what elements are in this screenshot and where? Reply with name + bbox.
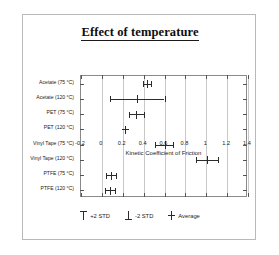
x-axis-tick-label: -0.2 bbox=[75, 140, 85, 146]
y-axis-category-label: PET (75 °C) bbox=[47, 110, 74, 116]
error-bar-cap bbox=[105, 188, 106, 194]
x-axis-tick bbox=[185, 75, 186, 79]
x-axis-tick bbox=[81, 75, 82, 79]
error-bar-cap bbox=[218, 157, 219, 163]
x-axis-tick bbox=[206, 193, 207, 197]
x-axis-tick-label: 0 bbox=[99, 140, 102, 146]
average-marker-cross bbox=[134, 99, 141, 100]
x-axis-tick bbox=[248, 75, 249, 79]
legend-item: +2 STD bbox=[80, 211, 110, 220]
average-marker-cross bbox=[133, 114, 140, 115]
y-axis-category-label: PTFE (75 °C) bbox=[43, 171, 74, 177]
legend-item: Average bbox=[168, 211, 200, 220]
error-bar-cap bbox=[106, 173, 107, 179]
error-bar-series bbox=[81, 160, 248, 161]
chart-legend: +2 STD-2 STDAverage bbox=[23, 211, 257, 220]
chart-title-text: Effect of temperature bbox=[81, 25, 198, 41]
x-axis-tick bbox=[102, 193, 103, 197]
y-axis-category-label: Vinyl Tape (120 °C) bbox=[30, 156, 74, 162]
y-axis-category-label: Acetate (120 °C) bbox=[36, 95, 74, 101]
x-axis-tick bbox=[227, 75, 228, 79]
error-bar-series bbox=[81, 99, 248, 100]
error-bar-series bbox=[81, 114, 248, 115]
average-marker-cross bbox=[122, 129, 129, 130]
gridline bbox=[165, 76, 166, 196]
legend-marker-icon bbox=[168, 211, 175, 220]
average-marker-cross bbox=[204, 160, 211, 161]
legend-label: +2 STD bbox=[90, 213, 110, 219]
average-marker-cross bbox=[144, 84, 151, 85]
average-marker-cross bbox=[108, 175, 115, 176]
x-axis-tick bbox=[123, 193, 124, 197]
plot-area bbox=[80, 75, 247, 197]
x-axis-tick bbox=[144, 75, 145, 79]
gridline bbox=[206, 76, 207, 196]
average-marker-cross bbox=[107, 190, 114, 191]
x-axis-tick-label: 1 bbox=[204, 140, 207, 146]
x-axis-tick bbox=[81, 193, 82, 197]
error-bar-series bbox=[81, 175, 248, 176]
error-bar-cap bbox=[129, 112, 130, 118]
error-bar-series bbox=[81, 190, 248, 191]
x-axis-tick-label: 0.2 bbox=[118, 140, 126, 146]
error-bar-cap bbox=[110, 96, 111, 102]
error-bar-cap bbox=[155, 142, 156, 148]
y-axis-category-label: Vinyl Tape (75 °C) bbox=[33, 141, 74, 147]
error-bar-series bbox=[81, 84, 248, 85]
legend-marker-icon bbox=[80, 211, 87, 220]
y-axis-category-label: Acetate (75 °C) bbox=[39, 80, 74, 86]
x-axis-tick-label: 1.2 bbox=[222, 140, 230, 146]
error-bar-series bbox=[81, 129, 248, 130]
x-axis-tick-label: 0.6 bbox=[160, 140, 168, 146]
x-axis-tick bbox=[165, 193, 166, 197]
y-axis-category-label: PET (120 °C) bbox=[44, 126, 74, 132]
error-bar-cap bbox=[144, 112, 145, 118]
x-axis-tick bbox=[165, 75, 166, 79]
gridline bbox=[123, 76, 124, 196]
chart-figure: Effect of temperature Acetate (75 °C)Ace… bbox=[22, 14, 256, 240]
gridline bbox=[102, 76, 103, 196]
legend-marker-icon bbox=[125, 211, 132, 220]
error-bar-cap bbox=[115, 188, 116, 194]
legend-item: -2 STD bbox=[125, 211, 153, 220]
error-bar-cap bbox=[165, 96, 166, 102]
x-axis-tick bbox=[102, 75, 103, 79]
legend-label: -2 STD bbox=[135, 213, 153, 219]
x-axis-tick bbox=[144, 193, 145, 197]
x-axis-tick bbox=[248, 193, 249, 197]
y-axis-category-label: PTFE (120 °C) bbox=[41, 187, 74, 193]
chart-title: Effect of temperature bbox=[23, 25, 257, 40]
gridline bbox=[248, 76, 249, 196]
x-axis-tick-label: 1.4 bbox=[243, 140, 251, 146]
error-bar-cap bbox=[151, 81, 152, 87]
x-axis-title: Kinetic Coefficient of Friction bbox=[80, 150, 247, 156]
gridline bbox=[227, 76, 228, 196]
x-axis-tick bbox=[185, 193, 186, 197]
error-bar-cap bbox=[196, 157, 197, 163]
x-axis-tick bbox=[206, 75, 207, 79]
gridline bbox=[185, 76, 186, 196]
x-axis-tick bbox=[123, 75, 124, 79]
x-axis-tick-label: 0.4 bbox=[139, 140, 147, 146]
x-axis-tick bbox=[227, 193, 228, 197]
legend-label: Average bbox=[178, 213, 200, 219]
error-bar-cap bbox=[116, 173, 117, 179]
error-bar-cap bbox=[173, 142, 174, 148]
gridline bbox=[144, 76, 145, 196]
x-axis-tick-label: 0.8 bbox=[180, 140, 188, 146]
